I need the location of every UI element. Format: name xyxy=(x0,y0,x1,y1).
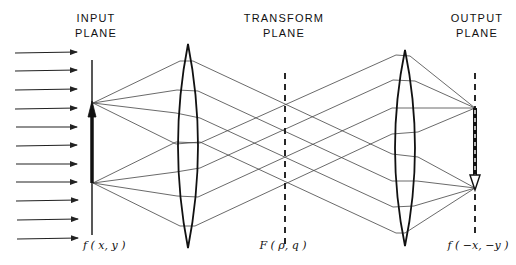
arrow-right-icon xyxy=(15,108,77,109)
output-plane-label-line2: PLANE xyxy=(456,27,498,39)
output-plane-label: OUTPUT PLANE xyxy=(451,12,503,39)
transform-plane-label: TRANSFORM PLANE xyxy=(244,12,324,39)
output-plane-label-line1: OUTPUT xyxy=(451,12,503,24)
arrow-right-icon xyxy=(15,52,77,53)
output-image-arrow-down-icon xyxy=(470,108,480,190)
transform-plane-label-line1: TRANSFORM xyxy=(244,12,324,24)
incoming-light-arrows xyxy=(15,52,78,239)
arrow-right-icon xyxy=(16,145,77,146)
lens-1 xyxy=(178,44,198,248)
input-plane-label-line2: PLANE xyxy=(75,27,117,39)
arrow-right-icon xyxy=(17,238,78,239)
input-function-label: f ( x, y ) xyxy=(82,239,126,252)
input-plane-label-line1: INPUT xyxy=(77,12,116,24)
arrow-right-icon xyxy=(17,219,78,220)
arrow-right-icon xyxy=(15,89,77,90)
lens-2 xyxy=(395,50,415,246)
optical-fourier-diagram: INPUT PLANE TRANSFORM PLANE OUTPUT PLANE xyxy=(0,0,516,265)
transform-function-label: F ( ρ, q ) xyxy=(258,239,306,252)
rays-in-lens1 xyxy=(176,61,200,226)
input-object-arrow-up-icon xyxy=(88,101,96,183)
output-function-label: f ( −x, −y ) xyxy=(447,239,509,252)
rays-input-to-lens1 xyxy=(93,61,180,226)
rays-lens1-to-lens2 xyxy=(193,55,396,233)
transform-plane-label-line2: PLANE xyxy=(263,27,305,39)
input-plane-label: INPUT PLANE xyxy=(75,12,117,39)
arrow-right-icon xyxy=(16,200,78,201)
arrow-right-icon xyxy=(15,70,77,71)
